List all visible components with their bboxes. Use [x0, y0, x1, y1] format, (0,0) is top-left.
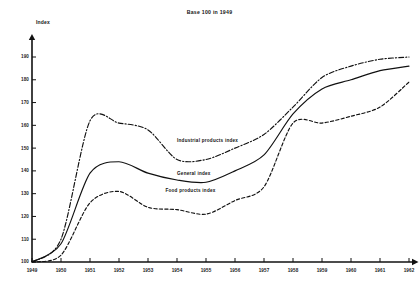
series-line-1 — [32, 66, 409, 262]
y-tick-label: 140 — [13, 168, 29, 173]
x-tick-label: 1961 — [369, 268, 391, 273]
x-tick-label: 1949 — [21, 268, 43, 273]
x-tick-label: 1952 — [108, 268, 130, 273]
series-line-0 — [32, 57, 409, 262]
y-axis-arrow — [29, 34, 35, 40]
x-tick-label: 1960 — [340, 268, 362, 273]
series-label-1: General index — [177, 171, 211, 176]
x-tick-label: 1951 — [79, 268, 101, 273]
x-tick-label: 1953 — [137, 268, 159, 273]
y-tick-label: 190 — [13, 54, 29, 59]
x-tick-label: 1959 — [311, 268, 333, 273]
series-label-2: Food products index — [165, 188, 215, 193]
y-tick-label: 150 — [13, 146, 29, 151]
y-tick-label: 160 — [13, 123, 29, 128]
x-tick-label: 1962 — [398, 268, 419, 273]
x-tick-label: 1956 — [224, 268, 246, 273]
x-tick-label: 1950 — [50, 268, 72, 273]
y-tick-label: 130 — [13, 191, 29, 196]
x-tick-label: 1955 — [195, 268, 217, 273]
axis-group — [29, 34, 419, 265]
x-tick-label: 1958 — [282, 268, 304, 273]
series-group — [32, 57, 409, 262]
series-label-0: Industrial products index — [177, 138, 238, 143]
y-tick-label: 170 — [13, 100, 29, 105]
y-tick-label: 100 — [13, 259, 29, 264]
x-tick-label: 1954 — [166, 268, 188, 273]
y-tick-label: 180 — [13, 77, 29, 82]
chart-page: Base 100 in 1949 Index 10011012013014015… — [0, 0, 419, 289]
y-tick-label: 110 — [13, 237, 29, 242]
x-axis-arrow — [412, 259, 419, 265]
series-line-2 — [32, 82, 409, 262]
x-tick-label: 1957 — [253, 268, 275, 273]
y-tick-label: 120 — [13, 214, 29, 219]
chart-plot-area — [0, 0, 419, 289]
